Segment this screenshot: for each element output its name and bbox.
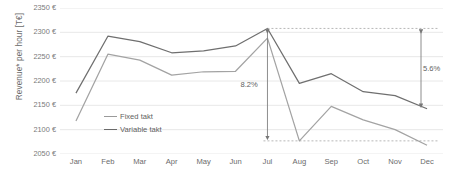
- legend-label: Variable takt: [120, 125, 162, 134]
- legend-item-fixed-takt: Fixed takt: [104, 110, 162, 123]
- y-axis-tick: 2050 €: [16, 150, 56, 158]
- y-axis-tick: 2350 €: [16, 4, 56, 12]
- legend-swatch-icon: [104, 116, 117, 117]
- y-axis-tick: 2300 €: [16, 28, 56, 36]
- annotation-label-left: 8.2%: [240, 80, 257, 89]
- y-axis-tick-labels: 2350 € 2300 € 2250 € 2200 € 2150 € 2100 …: [14, 0, 56, 179]
- revenue-per-hour-line-chart: Revenue* per hour [T€] 2350 € 2300 € 225…: [0, 0, 449, 179]
- y-axis-tick: 2250 €: [16, 53, 56, 61]
- chart-legend: Fixed takt Variable takt: [104, 110, 162, 136]
- y-axis-tick: 2150 €: [16, 101, 56, 109]
- y-axis-tick: 2200 €: [16, 77, 56, 85]
- legend-label: Fixed takt: [120, 112, 153, 121]
- x-axis-tick: Dec: [407, 157, 447, 166]
- annotation-label-right: 5.6%: [423, 64, 440, 73]
- legend-swatch-icon: [104, 129, 117, 130]
- y-axis-tick: 2100 €: [16, 126, 56, 134]
- legend-item-variable-takt: Variable takt: [104, 123, 162, 136]
